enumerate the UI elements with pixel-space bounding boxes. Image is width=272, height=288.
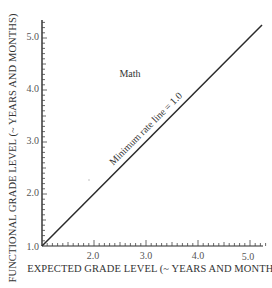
x-tick-label: 5.0 [242,251,255,262]
y-tick-label: 4.0 [27,83,40,94]
minimum-rate-line-label: Minimum rate line = 1.0 [107,90,184,167]
grade-level-chart: 1.0 2.0 3.0 4.0 5.0 2.0 3.0 4.0 5.0 Mini… [0,0,272,288]
subject-label: Math [119,68,140,79]
stray-mark [88,179,89,180]
y-tick-label: 1.0 [27,241,40,252]
y-tick-label: 2.0 [27,187,40,198]
y-axis-ticks [42,22,47,240]
x-tick-label: 3.0 [140,250,153,261]
x-axis-title: EXPECTED GRADE LEVEL (~ YEARS AND MONTHS… [27,263,272,275]
x-axis-ticks [47,240,265,246]
y-tick-label: 5.0 [27,31,40,42]
minimum-rate-line [42,25,262,246]
y-tick-label: 3.0 [27,135,40,146]
x-tick-label: 2.0 [87,250,100,261]
y-axis-title: FUNCTIONAL GRADE LEVEL (~ YEARS AND MONT… [7,13,19,282]
x-tick-label: 4.0 [192,250,205,261]
